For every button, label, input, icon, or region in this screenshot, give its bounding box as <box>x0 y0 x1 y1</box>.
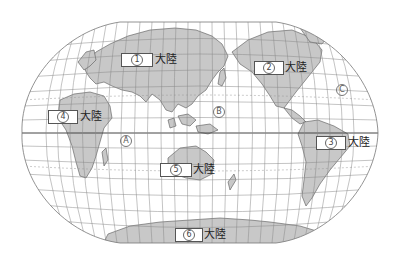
continent-label-1-box[interactable]: 1 <box>121 53 153 67</box>
continent-suffix-2: 大陸 <box>285 61 307 75</box>
continent-number-4: 4 <box>57 111 69 123</box>
continent-suffix-3: 大陸 <box>348 136 370 150</box>
ocean-marker-a: A <box>120 135 132 147</box>
ocean-marker-c: C <box>336 84 348 96</box>
continent-number-5: 5 <box>170 164 182 176</box>
continent-suffix-4: 大陸 <box>80 110 102 124</box>
continent-label-5-box[interactable]: 5 <box>160 163 192 177</box>
ocean-marker-b: B <box>213 106 225 118</box>
continent-number-3: 3 <box>325 137 337 149</box>
world-map <box>0 0 396 259</box>
map-body <box>0 0 396 259</box>
continent-suffix-5: 大陸 <box>193 163 215 177</box>
continent-label-2-box[interactable]: 2 <box>254 61 284 75</box>
continent-label-6-box[interactable]: 6 <box>175 228 203 242</box>
continent-suffix-1: 大陸 <box>155 53 177 67</box>
continent-number-2: 2 <box>263 62 275 74</box>
continent-number-1: 1 <box>131 54 143 66</box>
continent-suffix-6: 大陸 <box>204 228 226 242</box>
continent-label-4-box[interactable]: 4 <box>48 110 78 124</box>
continent-number-6: 6 <box>183 229 195 241</box>
continent-label-3-box[interactable]: 3 <box>316 136 346 150</box>
